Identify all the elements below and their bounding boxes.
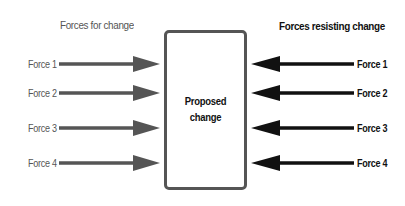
proposed-change-box: Proposed change	[164, 30, 247, 190]
force-for-label: Force 4	[28, 157, 57, 169]
force-against-label: Force 2	[357, 87, 387, 99]
proposed-change-text: Proposed change	[167, 93, 244, 125]
arrow-left-icon	[251, 85, 354, 101]
arrow-right-icon	[59, 120, 160, 136]
force-against-label: Force 3	[357, 122, 387, 134]
arrow-left-icon	[251, 56, 354, 72]
force-field-diagram: Forces for change Forces resisting chang…	[0, 0, 405, 206]
arrow-right-icon	[59, 155, 160, 171]
force-against-label: Force 1	[357, 58, 387, 70]
force-against-label: Force 4	[357, 157, 387, 169]
forces-for-arrows	[59, 56, 160, 171]
arrow-left-icon	[251, 155, 354, 171]
proposed-change-line1: Proposed	[172, 93, 238, 109]
force-for-label: Force 2	[28, 87, 57, 99]
arrow-right-icon	[59, 56, 160, 72]
forces-against-arrows	[251, 56, 354, 171]
proposed-change-line2: change	[172, 109, 238, 125]
force-for-label: Force 3	[28, 122, 57, 134]
arrow-right-icon	[59, 85, 160, 101]
arrow-left-icon	[251, 120, 354, 136]
force-for-label: Force 1	[28, 58, 57, 70]
